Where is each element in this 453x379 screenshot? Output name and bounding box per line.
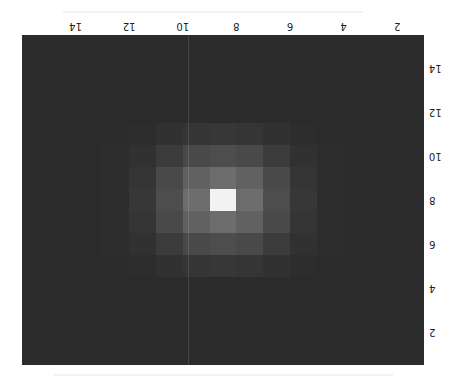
heatmap-cell [129,211,156,233]
heatmap-cell [102,211,129,233]
y-tick-label: 10 [429,150,447,162]
heatmap-cell [102,79,129,101]
heatmap-cell [263,299,290,321]
heatmap-cell [22,255,49,277]
heatmap-cell [210,211,237,233]
heatmap-cell [397,57,424,79]
heatmap-cell [236,101,263,123]
heatmap-cell [370,277,397,299]
heatmap-cell [49,233,76,255]
heatmap-cell [156,299,183,321]
heatmap-cell [210,57,237,79]
heatmap-cell [397,343,424,365]
heatmap-cell [49,123,76,145]
heatmap-cell [344,233,371,255]
heatmap-cell [183,79,210,101]
heatmap-cell [290,299,317,321]
heatmap-cell [370,321,397,343]
heatmap-cell [210,189,237,211]
heatmap-cell [344,255,371,277]
heatmap-cell [317,343,344,365]
heatmap-cell [156,145,183,167]
heatmap-cell [183,277,210,299]
heatmap-cell [290,123,317,145]
heatmap-cell [129,299,156,321]
heatmap-cell [129,343,156,365]
heatmap-cell [263,79,290,101]
heatmap-cell [22,145,49,167]
heatmap-cell [317,255,344,277]
heatmap-cell [317,321,344,343]
heatmap-cell [370,57,397,79]
heatmap-cell [49,101,76,123]
heatmap-cell [397,277,424,299]
heatmap-cell [156,343,183,365]
heatmap-cell [317,277,344,299]
heatmap-cell [129,57,156,79]
heatmap-cell [397,167,424,189]
heatmap-cell [49,35,76,57]
heatmap-cell [263,255,290,277]
heatmap-cell [290,277,317,299]
heatmap-cell [317,35,344,57]
heatmap-cell [156,101,183,123]
heatmap-cell [263,145,290,167]
heatmap-figure: 2 4 6 8 10 12 14 2 4 6 8 10 12 14 [0,0,453,379]
x-tick-label: 2 [394,20,400,32]
heatmap-cell [290,233,317,255]
heatmap-cell [49,145,76,167]
heatmap-cell [22,343,49,365]
heatmap-cell [370,167,397,189]
heatmap-cell [22,123,49,145]
heatmap-cell [156,321,183,343]
heatmap-cell [236,189,263,211]
heatmap-cell [397,299,424,321]
heatmap-cell [370,101,397,123]
heatmap-cell [102,123,129,145]
y-tick-label: 4 [429,282,447,294]
heatmap-cell [263,189,290,211]
heatmap-cell [290,321,317,343]
heatmap-cell [236,145,263,167]
heatmap-cell [236,233,263,255]
heatmap-cell [370,145,397,167]
heatmap-cell [102,57,129,79]
heatmap-cell [236,79,263,101]
heatmap-cell [236,211,263,233]
heatmap-cell [263,167,290,189]
heatmap-cell [397,123,424,145]
heatmap-cell [263,123,290,145]
heatmap-cell [183,123,210,145]
heatmap-cell [129,167,156,189]
heatmap-cell [263,343,290,365]
heatmap-cell [263,277,290,299]
x-tick-label: 6 [287,20,293,32]
heatmap-cell [49,79,76,101]
heatmap-cell [102,343,129,365]
heatmap-cell [183,255,210,277]
heatmap-cell [183,101,210,123]
heatmap-cell [183,321,210,343]
bleed-through-line [53,374,393,376]
heatmap-cell [210,343,237,365]
heatmap-cell [344,189,371,211]
heatmap-cell [183,167,210,189]
heatmap-cell [210,277,237,299]
heatmap-cell [22,167,49,189]
heatmap-cell [49,189,76,211]
heatmap-cell [370,79,397,101]
heatmap-cell [22,57,49,79]
x-tick-label: 12 [123,20,136,32]
heatmap-cell [102,255,129,277]
heatmap-cell [49,299,76,321]
heatmap-cell [210,233,237,255]
heatmap-cell [317,101,344,123]
heatmap-cell [183,299,210,321]
heatmap-cell [290,167,317,189]
y-tick-label: 12 [429,106,447,118]
heatmap-cell [263,211,290,233]
heatmap-cell [344,277,371,299]
heatmap-cell [317,299,344,321]
heatmap-cell [156,57,183,79]
heatmap-cell [397,321,424,343]
